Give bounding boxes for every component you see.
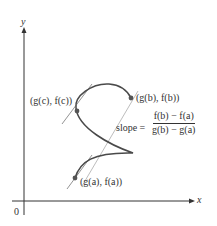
point-a-label: (g(a), f(a)) bbox=[80, 177, 122, 187]
point-c-label: (g(c), f(c)) bbox=[30, 96, 72, 106]
point-a bbox=[73, 176, 78, 181]
x-axis-arrow-icon bbox=[189, 199, 195, 204]
point-c bbox=[75, 109, 80, 114]
origin-label: 0 bbox=[14, 207, 19, 217]
slope-prefix: slope = bbox=[116, 123, 145, 133]
slope-numerator: f(b) − f(a) bbox=[153, 111, 195, 124]
y-axis-arrow-icon bbox=[22, 27, 27, 33]
slope-denominator: g(b) − g(a) bbox=[152, 124, 195, 136]
y-axis-label: y bbox=[21, 17, 25, 27]
slope-fraction: f(b) − f(a) g(b) − g(a) bbox=[152, 111, 195, 135]
point-b bbox=[129, 96, 134, 101]
x-axis-label: x bbox=[197, 195, 201, 205]
point-b-label: (g(b), f(b)) bbox=[136, 93, 179, 103]
secant-line bbox=[82, 91, 138, 186]
